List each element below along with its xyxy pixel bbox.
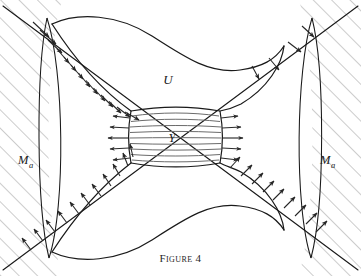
arrows-y-right bbox=[221, 116, 243, 160]
svg-text:a: a bbox=[29, 160, 33, 170]
y-rectangle bbox=[129, 107, 223, 167]
u-boundary-upper bbox=[52, 17, 284, 71]
y-foliation-lines bbox=[130, 113, 222, 162]
svg-text:a: a bbox=[331, 160, 335, 170]
figure-container: U Y M a M a Figure 4 bbox=[0, 0, 361, 276]
hatch-region-right bbox=[266, 0, 361, 276]
svg-text:M: M bbox=[17, 153, 29, 167]
u-boundary-upper-waist-left bbox=[52, 24, 131, 111]
arrows-y-left bbox=[108, 116, 130, 160]
svg-text:M: M bbox=[319, 153, 331, 167]
hatch-region-left bbox=[0, 0, 95, 276]
figure-4-diagram: U Y M a M a bbox=[0, 0, 361, 276]
u-boundary-lower-waist-right bbox=[220, 163, 284, 230]
region-u-label: U bbox=[163, 72, 174, 87]
figure-caption: Figure 4 bbox=[0, 252, 361, 264]
u-boundary-lower-waist-left bbox=[52, 163, 131, 252]
